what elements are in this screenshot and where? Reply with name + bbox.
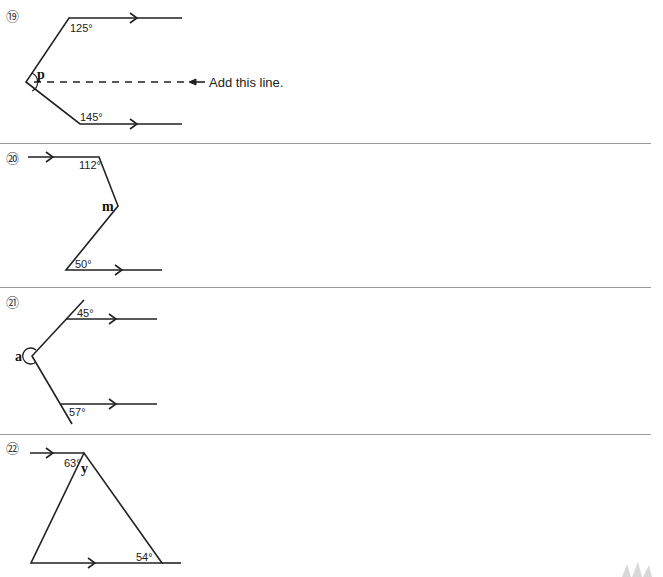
instruction-note: Add this line. [209,75,283,90]
unknown-angle-a: a [15,349,22,364]
angle-label-50: 50° [75,258,92,270]
angle-label-54: 54° [136,551,153,563]
angle-label-125: 125° [70,22,93,34]
angle-arc [23,348,36,364]
angle-label-112: 112° [79,159,101,171]
unknown-angle-m: m [102,199,114,214]
angle-label-57: 57° [69,406,86,418]
decorative-mark-icon [622,562,652,577]
angle-label-45: 45° [77,307,94,319]
diagram-22 [30,448,181,568]
geometry-diagrams: 125° 145° p Add this line. 112° m 50° 45… [0,0,663,577]
angle-label-63: 63° [64,457,81,469]
angle-label-145: 145° [80,111,103,123]
unknown-angle-p: p [37,67,45,82]
diagram-19 [26,13,205,129]
unknown-angle-y: y [81,461,88,476]
